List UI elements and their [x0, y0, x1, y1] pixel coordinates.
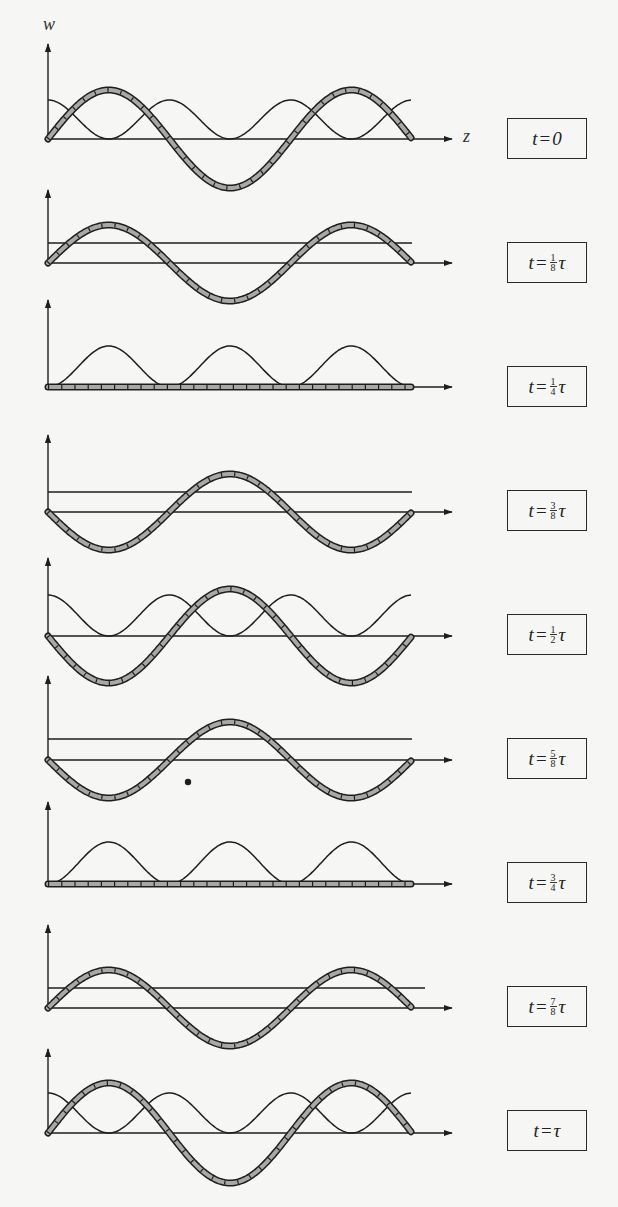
equals-sign: =	[536, 252, 547, 274]
panel-5	[48, 676, 452, 798]
tau-symbol: τ	[559, 376, 566, 398]
equals-sign: =	[536, 500, 547, 522]
dot-marker	[185, 779, 191, 785]
w-axis-label: w	[43, 14, 55, 35]
equals-sign: =	[540, 128, 551, 150]
equals-sign: =	[541, 1120, 552, 1142]
time-label-box: t=38τ	[507, 490, 587, 531]
equals-sign: =	[536, 624, 547, 646]
panel-0	[48, 44, 452, 188]
energy-bumps	[48, 346, 411, 387]
time-variable: t	[529, 252, 534, 274]
energy-curve	[48, 100, 411, 139]
panel-1	[48, 190, 452, 301]
panel-8	[48, 1049, 452, 1183]
time-label-box: t=58τ	[507, 738, 587, 779]
equals-sign: =	[536, 748, 547, 770]
time-label-box: t=12τ	[507, 614, 587, 655]
panel-6	[48, 802, 452, 884]
time-label-box: t=18τ	[507, 242, 587, 283]
panel-4	[48, 558, 452, 683]
tau-symbol: τ	[554, 1120, 561, 1142]
fraction: 58	[550, 749, 557, 768]
energy-bumps	[48, 842, 411, 884]
panel-7	[48, 925, 452, 1046]
time-variable: t	[529, 624, 534, 646]
time-label-box: t=14τ	[507, 366, 587, 407]
equals-sign: =	[536, 996, 547, 1018]
time-variable: t	[529, 500, 534, 522]
z-axis-label: z	[463, 126, 470, 147]
tau-symbol: τ	[559, 996, 566, 1018]
time-variable: t	[529, 996, 534, 1018]
time-variable: t	[532, 128, 537, 150]
panel-2	[48, 300, 452, 387]
fraction: 14	[550, 377, 557, 396]
time-variable: t	[534, 1120, 539, 1142]
time-label-box: t=34τ	[507, 862, 587, 903]
panel-3	[48, 435, 452, 550]
energy-curve	[48, 1093, 411, 1133]
fraction: 78	[550, 997, 557, 1016]
time-variable: t	[529, 872, 534, 894]
fraction: 34	[550, 873, 557, 892]
tau-symbol: τ	[559, 252, 566, 274]
equals-sign: =	[536, 376, 547, 398]
fraction: 38	[550, 501, 557, 520]
energy-curve	[48, 595, 411, 636]
time-label-box: t=τ	[507, 1110, 587, 1151]
fraction: 18	[550, 253, 557, 272]
time-panels	[48, 44, 452, 1183]
time-value: 0	[552, 128, 562, 150]
fraction: 12	[550, 625, 557, 644]
tau-symbol: τ	[559, 500, 566, 522]
time-variable: t	[529, 748, 534, 770]
tau-symbol: τ	[559, 624, 566, 646]
equals-sign: =	[536, 872, 547, 894]
time-variable: t	[529, 376, 534, 398]
time-label-box: t=78τ	[507, 986, 587, 1027]
time-label-box: t=0	[507, 118, 587, 159]
tau-symbol: τ	[559, 748, 566, 770]
tau-symbol: τ	[559, 872, 566, 894]
